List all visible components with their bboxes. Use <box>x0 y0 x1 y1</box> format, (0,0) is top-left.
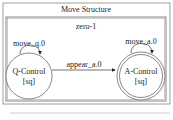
svg-text:move_a.0: move_a.0 <box>125 37 156 46</box>
node-q-control[interactable]: Q-Control [sq] <box>6 53 52 99</box>
diagram-title: Move Structure <box>61 5 111 14</box>
svg-text:Q-Control: Q-Control <box>13 67 47 76</box>
svg-text:appear_a.0: appear_a.0 <box>67 60 102 69</box>
node-a-control[interactable]: A-Control [sq] <box>117 52 165 100</box>
svg-text:move_q.0: move_q.0 <box>13 39 45 48</box>
svg-text:[sq]: [sq] <box>135 77 148 86</box>
move-structure-diagram: Move Structure zero-1 Q-Control [sq] mov… <box>0 0 173 120</box>
svg-text:[sq]: [sq] <box>23 77 36 86</box>
svg-text:A-Control: A-Control <box>125 67 159 76</box>
cluster-label: zero-1 <box>76 22 96 31</box>
